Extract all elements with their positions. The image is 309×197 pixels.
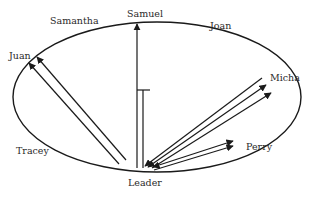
node-label-juan: Juan: [9, 51, 31, 61]
node-label-micha: Micha: [270, 73, 300, 83]
node-label-samantha: Samantha: [50, 16, 99, 26]
edge-leader-juan-arrow-2: [37, 57, 126, 160]
edge-leader-perry-arrow-1: [153, 141, 233, 167]
node-label-leader: Leader: [128, 178, 162, 188]
edge-micha-leader-arrow: [145, 78, 262, 166]
sociogram-diagram: [0, 0, 309, 197]
node-label-samuel: Samuel: [127, 9, 163, 19]
node-label-tracey: Tracey: [16, 146, 49, 156]
node-label-joan: Joan: [210, 21, 231, 31]
node-label-perry: Perry: [246, 142, 272, 152]
edge-leader-micha-arrow-2: [152, 93, 271, 168]
